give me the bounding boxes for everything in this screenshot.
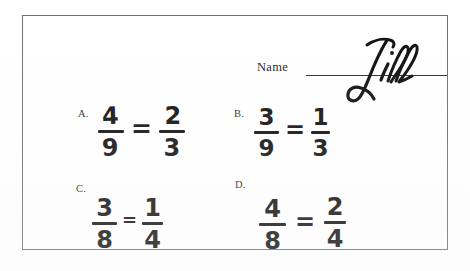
problem-a-left-fraction: 4 9 (98, 104, 124, 160)
problem-b-right-fraction-bar (311, 131, 330, 134)
problem-b-label: B. (234, 108, 244, 119)
paper-border: Name (22, 15, 448, 250)
problem-a-equals-sign: = (131, 116, 152, 141)
problem-a-right-denominator: 3 (164, 136, 181, 160)
problem-b-right-numerator: 1 (313, 106, 329, 129)
problem-c-left-numerator: 3 (96, 196, 113, 220)
problem-b-right-denominator: 3 (313, 137, 329, 160)
problem-a-right-fraction: 2 3 (159, 104, 185, 160)
problem-a-left-denominator: 9 (102, 136, 119, 160)
problem-b-right-fraction: 1 3 (311, 106, 330, 160)
problem-c-equals-sign: = (122, 211, 137, 229)
worksheet-page: Name (0, 0, 470, 271)
problem-c-label: C. (76, 183, 86, 194)
problem-d-left-fraction-bar (259, 223, 286, 226)
problem-c-left-denominator: 8 (96, 228, 113, 252)
problem-d-equals-sign: = (295, 210, 315, 234)
problem-d-right-fraction: 2 4 (324, 195, 346, 251)
problem-d-left-numerator: 4 (264, 197, 281, 221)
problem-b-left-fraction: 3 9 (254, 106, 279, 160)
problem-d-right-fraction-bar (324, 221, 346, 224)
problem-a-label: A. (78, 108, 89, 119)
problem-a-right-numerator: 2 (165, 104, 182, 128)
problem-c-equation: 3 8 = 1 4 (92, 196, 163, 252)
name-field[interactable]: Name (257, 58, 452, 82)
problem-a-left-fraction-bar (98, 130, 124, 133)
problem-b-left-fraction-bar (254, 131, 279, 134)
problem-d-equation: 4 8 = 2 4 (259, 197, 346, 253)
problem-d-right-denominator: 4 (327, 227, 344, 251)
problem-c-right-denominator: 4 (144, 228, 161, 252)
problem-b-equals-sign: = (285, 118, 305, 142)
problem-b-equation: 3 9 = 1 3 (254, 106, 330, 160)
name-label: Name (257, 60, 288, 75)
name-write-line[interactable] (306, 75, 447, 76)
problem-b-left-numerator: 3 (258, 106, 274, 129)
problem-c-right-numerator: 1 (144, 196, 161, 220)
problem-d-label: D. (235, 179, 246, 190)
problem-c-left-fraction: 3 8 (92, 196, 117, 252)
problem-a-right-fraction-bar (159, 130, 185, 133)
problem-c-right-fraction: 1 4 (142, 196, 163, 252)
problem-d-left-fraction: 4 8 (259, 197, 286, 253)
problem-d-left-denominator: 8 (264, 229, 281, 253)
problem-d-right-numerator: 2 (327, 195, 344, 219)
problem-a-equation: 4 9 = 2 3 (98, 104, 185, 160)
problem-b-left-denominator: 9 (258, 137, 274, 160)
problem-c-left-fraction-bar (92, 222, 117, 225)
problem-c-right-fraction-bar (142, 222, 163, 225)
problem-a-left-numerator: 4 (101, 104, 119, 129)
